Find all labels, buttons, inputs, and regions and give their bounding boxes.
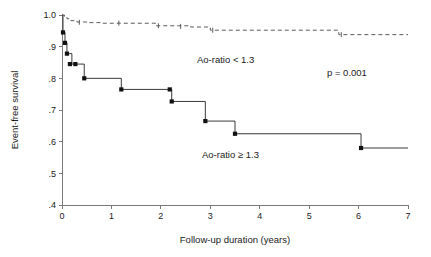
event-marker (61, 30, 65, 34)
y-tick-label: 1.0 (43, 10, 56, 20)
kaplan-meier-figure: .4.5.6.7.8.91.0 01234567 Follow-up durat… (0, 0, 431, 257)
x-tick-label: 2 (158, 211, 163, 221)
event-marker (203, 119, 207, 123)
event-marker (73, 62, 77, 66)
x-tick-label: 3 (208, 211, 213, 221)
survival-curve-ao-ratio-high (62, 15, 408, 148)
x-tick-label: 0 (59, 211, 64, 221)
y-axis-title: Event-free survival (9, 71, 20, 150)
x-axis-tick-group: 01234567 (59, 205, 410, 221)
event-marker-group (61, 30, 363, 150)
event-marker (233, 132, 237, 136)
x-tick-label: 5 (307, 211, 312, 221)
y-tick-label: .9 (48, 42, 56, 52)
survival-curve-ao-ratio-low (62, 15, 408, 35)
annotation-pvalue: p = 0.001 (327, 67, 367, 78)
event-marker (68, 62, 72, 66)
event-marker (65, 52, 69, 56)
event-marker (170, 99, 174, 103)
x-tick-label: 4 (257, 211, 262, 221)
x-tick-label: 6 (356, 211, 361, 221)
y-tick-label: .8 (48, 74, 56, 84)
y-tick-label: .5 (48, 169, 56, 179)
event-marker (168, 87, 172, 91)
event-marker (63, 41, 67, 45)
annotation-lower-group-label: Ao-ratio ≥ 1.3 (202, 149, 259, 160)
event-marker (82, 76, 86, 80)
y-tick-label: .4 (48, 200, 56, 210)
event-marker (119, 87, 123, 91)
x-axis-title: Follow-up duration (years) (180, 234, 290, 245)
x-tick-label: 1 (109, 211, 114, 221)
y-tick-label: .7 (48, 105, 56, 115)
y-tick-label: .6 (48, 137, 56, 147)
annotation-upper-group-label: Ao-ratio < 1.3 (197, 54, 254, 65)
x-tick-label: 7 (405, 211, 410, 221)
event-marker (359, 146, 363, 150)
chart-canvas: .4.5.6.7.8.91.0 01234567 Follow-up durat… (0, 0, 431, 257)
y-axis-tick-group: .4.5.6.7.8.91.0 (43, 10, 62, 210)
